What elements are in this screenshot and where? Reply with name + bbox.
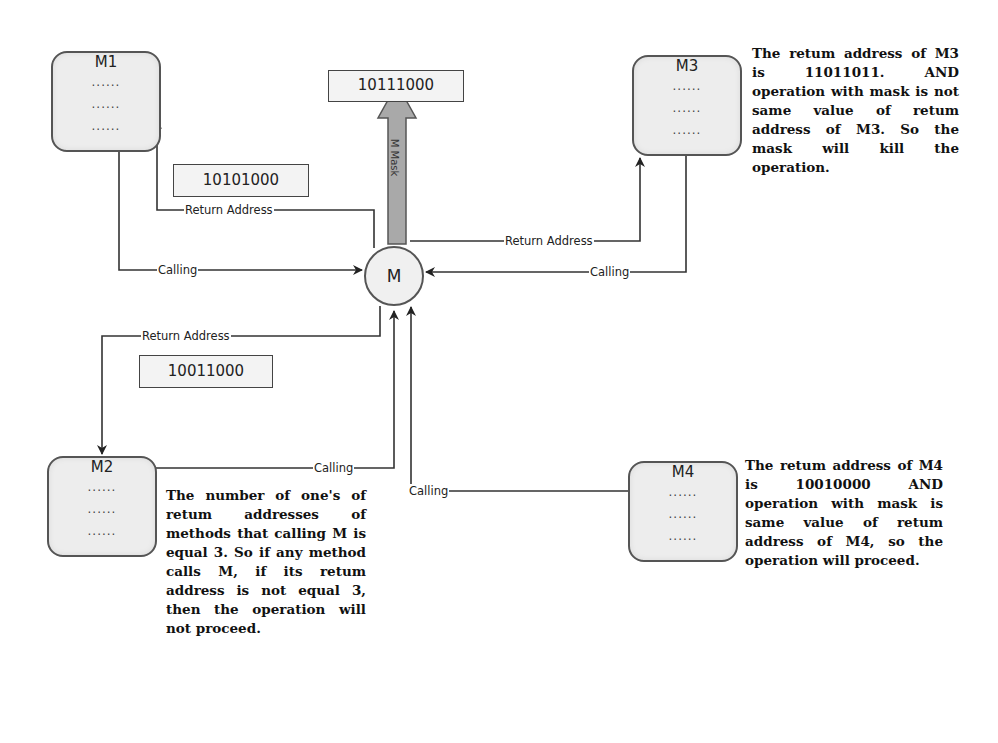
node-title: M2: [49, 459, 155, 476]
node-line: ......: [630, 525, 736, 547]
node-line: ......: [53, 115, 159, 137]
node-line: ......: [634, 97, 740, 119]
node-title: M4: [630, 464, 736, 481]
m1-calling-label: Calling: [157, 263, 198, 277]
node-m4: M4 ...... ...... ......: [628, 461, 738, 562]
m4-note: The retum address of M4 is 10010000 AND …: [745, 456, 943, 570]
node-line: ......: [634, 75, 740, 97]
mask-arrow-label: M Mask: [389, 136, 400, 180]
node-line: ......: [49, 520, 155, 542]
node-title: M3: [634, 58, 740, 75]
m2-return-label: Return Address: [141, 329, 231, 343]
node-line: ......: [630, 503, 736, 525]
node-line: ......: [53, 93, 159, 115]
m1-return-value-box: 10101000: [173, 164, 309, 197]
m3-return-edge: [410, 158, 640, 241]
node-m1: M1 ...... ...... ......: [51, 51, 161, 152]
node-m3: M3 ...... ...... ......: [632, 55, 742, 156]
node-line: ......: [630, 481, 736, 503]
m2-return-value-box: 10011000: [139, 355, 273, 388]
m2-note: The number of one's of retum addresses o…: [166, 486, 366, 638]
node-line: ......: [49, 498, 155, 520]
m3-calling-label: Calling: [589, 265, 630, 279]
node-line: ......: [53, 71, 159, 93]
m1-return-label: Return Address: [184, 203, 274, 217]
node-title: M1: [53, 54, 159, 71]
node-m2: M2 ...... ...... ......: [47, 456, 157, 557]
m4-calling-edge: [411, 307, 630, 491]
m3-calling-edge: [426, 155, 686, 272]
center-node-m: M: [364, 246, 424, 306]
node-line: ......: [634, 119, 740, 141]
m2-calling-label: Calling: [313, 461, 354, 475]
mask-value-box: 10111000: [328, 70, 464, 102]
center-node-label: M: [387, 266, 402, 286]
m3-return-label: Return Address: [504, 234, 594, 248]
node-line: ......: [49, 476, 155, 498]
m3-note: The retum address of M3 is 11011011. AND…: [752, 44, 959, 177]
m4-calling-label: Calling: [408, 484, 449, 498]
